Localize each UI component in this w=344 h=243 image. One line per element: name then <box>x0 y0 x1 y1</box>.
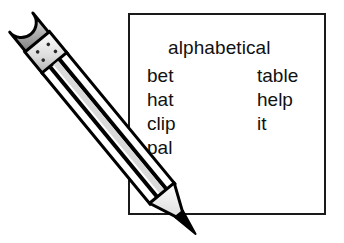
word-item: it <box>257 112 298 136</box>
word-item: pal <box>147 136 176 160</box>
word-item: table <box>257 64 298 88</box>
pencil-ferrule <box>25 32 68 74</box>
word-item: hat <box>147 88 176 112</box>
ferrule-dot-icon <box>46 42 51 47</box>
word-list-heading: alphabetical <box>168 38 271 58</box>
word-column-left: bet hat clip pal <box>147 64 176 160</box>
pencil-eraser <box>10 13 50 52</box>
ferrule-dot-icon <box>41 58 46 63</box>
word-item: clip <box>147 112 176 136</box>
ferrule-dot-icon <box>53 49 58 54</box>
worksheet-canvas: alphabetical bet hat clip pal table help… <box>0 0 344 243</box>
word-item: bet <box>147 64 176 88</box>
word-item: help <box>257 88 298 112</box>
word-column-right: table help it <box>257 64 298 136</box>
ferrule-dot-icon <box>35 49 40 54</box>
